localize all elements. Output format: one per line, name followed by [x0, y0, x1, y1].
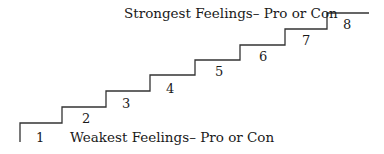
step-number-6: 6: [259, 50, 267, 63]
step-number-2: 2: [82, 112, 90, 125]
step-number-4: 4: [166, 82, 174, 95]
bottom-label: Weakest Feelings– Pro or Con: [70, 131, 274, 145]
staircase-diagram: Strongest Feelings– Pro or Con Weakest F…: [0, 0, 384, 154]
step-number-3: 3: [122, 97, 130, 110]
step-number-5: 5: [215, 65, 223, 78]
step-number-1: 1: [36, 131, 44, 144]
top-label: Strongest Feelings– Pro or Con: [124, 7, 338, 21]
step-number-7: 7: [302, 34, 310, 47]
step-number-8: 8: [343, 18, 351, 31]
